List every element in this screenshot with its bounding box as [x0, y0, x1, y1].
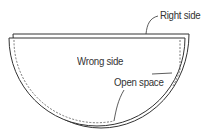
- label-wrong-side: Wrong side: [77, 55, 123, 67]
- sewing-diagram: Right side Wrong side Open space: [0, 0, 209, 138]
- label-right-side: Right side: [160, 9, 200, 21]
- label-open-space: Open space: [114, 76, 164, 88]
- right-side-leader: [146, 16, 158, 34]
